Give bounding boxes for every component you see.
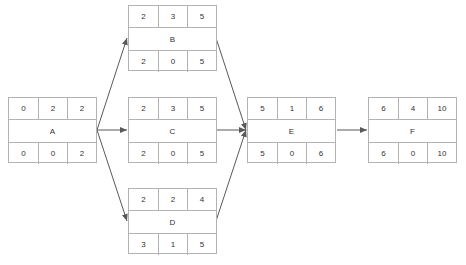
node-b-label: B [129,28,216,50]
node-a-early-start: 0 [9,98,38,119]
node-e-late-start: 5 [248,143,277,164]
edge-a-b [97,38,127,130]
node-b-slack: 0 [158,51,187,72]
node-e: 5 1 6 E 5 0 6 [247,97,336,163]
node-e-slack: 0 [277,143,306,164]
node-a-slack: 0 [38,143,67,164]
node-e-early-finish: 6 [306,98,335,119]
node-e-early-start: 5 [248,98,277,119]
node-f-duration: 4 [398,98,427,119]
node-c-slack: 0 [158,143,187,164]
node-f-early-start: 6 [369,98,398,119]
node-e-late-finish: 6 [306,143,335,164]
node-d-early-start: 2 [129,189,158,210]
node-c-early-finish: 5 [187,98,216,119]
node-f-late-start: 6 [369,143,398,164]
node-a-early-finish: 2 [67,98,96,119]
node-b-early-finish: 5 [187,6,216,27]
node-f-label: F [369,120,456,142]
node-e-duration: 1 [277,98,306,119]
edge-b-e [216,38,246,130]
node-c-late-finish: 5 [187,143,216,164]
node-a-late-start: 0 [9,143,38,164]
node-b: 2 3 5 B 2 0 5 [128,5,217,71]
node-b-duration: 3 [158,6,187,27]
node-d-duration: 2 [158,189,187,210]
edge-a-d [97,130,127,221]
node-b-late-finish: 5 [187,51,216,72]
node-d-slack: 1 [158,234,187,255]
edge-d-e [216,130,246,221]
node-d-late-start: 3 [129,234,158,255]
node-d-late-finish: 5 [187,234,216,255]
node-c-late-start: 2 [129,143,158,164]
node-c-label: C [129,120,216,142]
node-b-late-start: 2 [129,51,158,72]
node-c-duration: 3 [158,98,187,119]
node-c-early-start: 2 [129,98,158,119]
node-c: 2 3 5 C 2 0 5 [128,97,217,163]
node-d-label: D [129,211,216,233]
node-f-early-finish: 10 [427,98,456,119]
node-d-early-finish: 4 [187,189,216,210]
node-a: 0 2 2 A 0 0 2 [8,97,97,163]
node-a-late-finish: 2 [67,143,96,164]
node-a-label: A [9,120,96,142]
node-f-slack: 0 [398,143,427,164]
node-b-early-start: 2 [129,6,158,27]
node-f: 6 4 10 F 6 0 10 [368,97,457,163]
node-a-duration: 2 [38,98,67,119]
network-diagram: 0 2 2 A 0 0 2 2 3 5 B 2 0 5 2 3 5 C [0,0,466,265]
node-e-label: E [248,120,335,142]
node-d: 2 2 4 D 3 1 5 [128,188,217,254]
node-f-late-finish: 10 [427,143,456,164]
